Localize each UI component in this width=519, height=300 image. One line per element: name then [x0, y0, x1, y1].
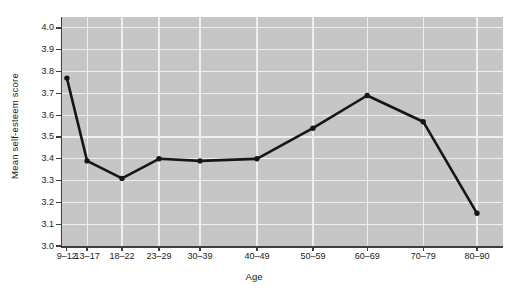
y-tick-mark: [56, 115, 61, 116]
y-tick-mark: [56, 71, 61, 72]
x-axis-line: [61, 246, 504, 248]
y-tick-label: 3.5: [28, 131, 54, 142]
x-tick-label: 60–69: [345, 251, 389, 262]
y-tick-mark: [56, 202, 61, 203]
data-point-marker: [310, 126, 315, 131]
y-tick-label: 3.9: [28, 44, 54, 55]
x-tick-label: 40–49: [235, 251, 279, 262]
data-line: [67, 78, 477, 213]
data-point-marker: [64, 75, 69, 80]
y-tick-label: 4.0: [28, 22, 54, 33]
self-esteem-line-chart: Mean self-esteem score Age 3.03.13.23.33…: [0, 0, 519, 300]
x-tick-label: 80–90: [455, 251, 499, 262]
y-tick-mark: [56, 93, 61, 94]
x-tick-label: 50–59: [291, 251, 335, 262]
y-tick-label: 3.3: [28, 175, 54, 186]
data-point-marker: [119, 176, 124, 181]
y-axis-line: [61, 17, 63, 248]
y-tick-label: 3.4: [28, 153, 54, 164]
data-point-marker: [84, 158, 89, 163]
y-tick-mark: [56, 27, 61, 28]
y-tick-mark: [56, 136, 61, 137]
x-tick-label: 70–79: [401, 251, 445, 262]
data-point-marker: [365, 93, 370, 98]
y-tick-label: 3.1: [28, 219, 54, 230]
y-axis-title: Mean self-esteem score: [9, 73, 20, 179]
data-point-marker: [254, 156, 259, 161]
x-axis-title: Age: [246, 271, 263, 282]
data-point-marker: [197, 158, 202, 163]
data-point-marker: [156, 156, 161, 161]
y-tick-label: 3.8: [28, 66, 54, 77]
plot-area: [62, 17, 503, 246]
line-chart-svg: [62, 17, 503, 246]
y-tick-mark: [56, 245, 61, 246]
data-point-marker: [421, 119, 426, 124]
y-tick-label: 3.7: [28, 88, 54, 99]
y-tick-label: 3.2: [28, 197, 54, 208]
y-tick-mark: [56, 158, 61, 159]
y-tick-mark: [56, 224, 61, 225]
x-tick-label: 23–29: [137, 251, 181, 262]
y-tick-label: 3.6: [28, 110, 54, 121]
y-tick-mark: [56, 49, 61, 50]
y-tick-mark: [56, 180, 61, 181]
data-point-marker: [474, 211, 479, 216]
x-tick-label: 30–39: [178, 251, 222, 262]
